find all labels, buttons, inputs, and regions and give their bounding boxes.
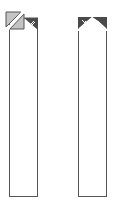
right-panel[interactable]	[78, 18, 107, 197]
fold-split-icon	[2, 9, 42, 31]
notch-peak-icon	[78, 17, 107, 31]
left-panel[interactable]	[9, 18, 38, 197]
